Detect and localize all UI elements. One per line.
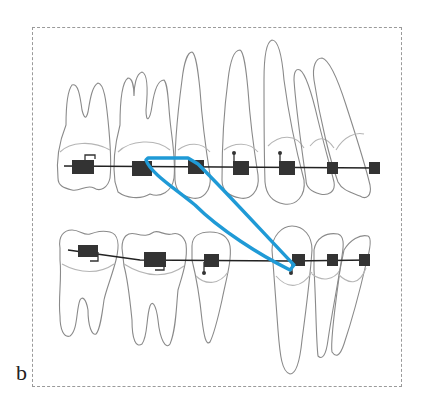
dental-diagram bbox=[0, 0, 429, 413]
bracket-upper-4 bbox=[233, 161, 249, 175]
bracket-upper-6 bbox=[327, 162, 338, 174]
lower-molar-2 bbox=[122, 232, 186, 346]
lower-lateral-incisor bbox=[314, 234, 343, 358]
hook-ball-lower-3 bbox=[202, 271, 206, 275]
upper-molar-1-gum bbox=[60, 143, 110, 152]
upper-central-incisor bbox=[313, 58, 370, 198]
bracket-upper-5 bbox=[279, 161, 295, 175]
hook-ball-upper-4 bbox=[232, 151, 236, 155]
lower-molar-1-gum bbox=[62, 264, 114, 272]
upper-molar-2 bbox=[114, 72, 175, 198]
bracket-lower-6 bbox=[359, 254, 370, 266]
hook-ball-upper-5 bbox=[278, 151, 282, 155]
bracket-upper-1 bbox=[72, 160, 94, 174]
upper-premolar-2 bbox=[222, 50, 258, 198]
tube-hook-upper-1 bbox=[85, 155, 95, 160]
lower-canine-gum bbox=[276, 272, 312, 285]
upper-brackets bbox=[72, 151, 380, 176]
bracket-upper-7 bbox=[369, 162, 380, 174]
bracket-lower-1 bbox=[78, 245, 98, 257]
bracket-lower-5 bbox=[327, 254, 338, 266]
lower-central-incisor bbox=[332, 236, 371, 356]
lower-lateral-gum bbox=[312, 270, 340, 279]
lower-premolar bbox=[192, 232, 230, 343]
upper-lateral-gum bbox=[310, 139, 334, 148]
bracket-lower-2 bbox=[144, 252, 166, 267]
upper-lateral-incisor bbox=[294, 69, 334, 194]
upper-molar-2-gum bbox=[118, 142, 170, 152]
upper-premolar-1 bbox=[175, 52, 210, 198]
upper-molar-1 bbox=[57, 83, 110, 190]
bracket-lower-3 bbox=[204, 254, 219, 267]
upper-premolar-2-gum bbox=[224, 144, 258, 152]
lower-teeth bbox=[59, 226, 370, 374]
lower-premolar-gum bbox=[196, 272, 228, 282]
upper-canine-gum bbox=[268, 137, 304, 148]
